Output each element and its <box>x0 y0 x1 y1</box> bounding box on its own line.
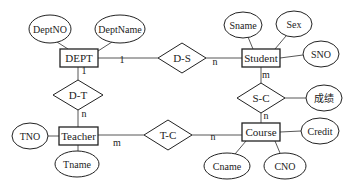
cardinality-ds-student: n <box>213 56 218 67</box>
edge-course-credit <box>280 131 301 132</box>
attribute-deptno-label: DeptNO <box>33 24 67 35</box>
attribute-sno-label: SNO <box>311 49 331 60</box>
attribute-tname-label: Tname <box>63 159 91 170</box>
entity-dept: DEPT <box>60 49 98 67</box>
edge-course-cname <box>235 141 246 154</box>
attribute-sname-label: Sname <box>229 20 257 31</box>
edge-deptname-dept <box>98 42 112 51</box>
entity-student: Student <box>242 49 280 67</box>
edge-sname-student <box>248 37 253 49</box>
relationship-ds-label: D-S <box>173 52 191 64</box>
entity-teacher-label: Teacher <box>61 130 96 142</box>
relationship-sc: S-C <box>237 83 285 113</box>
attribute-cno: CNO <box>264 153 306 179</box>
cardinality-sc-course: n <box>264 110 269 121</box>
edge-sex-student <box>275 36 286 49</box>
edge-deptno-dept <box>57 42 68 49</box>
relationship-ds: D-S <box>158 43 206 73</box>
attribute-cname: Cname <box>204 153 250 179</box>
attribute-credit: Credit <box>301 118 339 144</box>
relationship-tc: T-C <box>144 120 192 150</box>
entity-dept-label: DEPT <box>65 52 93 64</box>
attribute-sname: Sname <box>224 12 262 38</box>
attribute-cno-label: CNO <box>274 161 295 172</box>
edge-course-cno <box>275 141 280 153</box>
relationship-sc-label: S-C <box>252 92 269 104</box>
attribute-deptname: DeptName <box>95 15 145 43</box>
attribute-grade-label: 成绩 <box>314 92 334 104</box>
cardinality-student-sc: m <box>262 69 270 80</box>
cardinality-dt-teacher: n <box>82 108 87 119</box>
cardinality-dept-ds: 1 <box>120 54 125 65</box>
relationship-tc-label: T-C <box>160 129 177 141</box>
attribute-sex: Sex <box>276 11 312 37</box>
attribute-sex-label: Sex <box>287 19 302 30</box>
attribute-deptno: DeptNO <box>29 15 71 43</box>
attribute-tno-label: TNO <box>20 131 41 142</box>
cardinality-teacher-tc: m <box>113 137 121 148</box>
entity-teacher: Teacher <box>59 127 98 145</box>
cardinality-dept-dt: 1 <box>82 65 87 76</box>
attribute-tname: Tname <box>55 151 99 177</box>
cardinality-tc-course: n <box>211 131 216 142</box>
relationship-dt-label: D-T <box>69 89 88 101</box>
attribute-deptname-label: DeptName <box>98 24 142 35</box>
er-diagram: DEPT Student Teacher Course D-S D-T S-C … <box>0 0 353 188</box>
attribute-credit-label: Credit <box>308 126 333 137</box>
entity-student-label: Student <box>244 52 278 64</box>
edge-student-sno <box>280 55 303 58</box>
attribute-tno: TNO <box>12 123 48 149</box>
entity-course: Course <box>242 123 280 141</box>
entity-course-label: Course <box>245 126 276 138</box>
relationship-dt: D-T <box>53 80 103 110</box>
attribute-grade: 成绩 <box>306 85 342 111</box>
attribute-sno: SNO <box>303 41 339 67</box>
attribute-cname-label: Cname <box>213 161 242 172</box>
